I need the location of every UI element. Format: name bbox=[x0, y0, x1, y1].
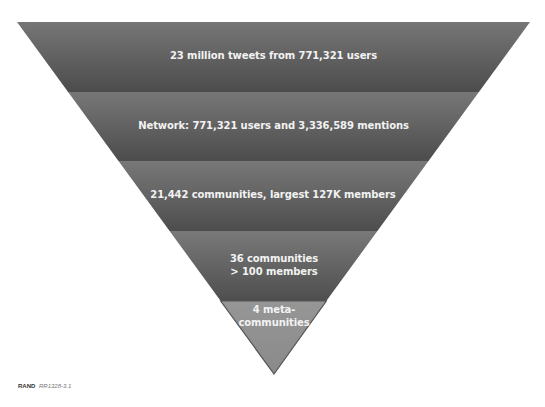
band-4-line-1: 36 communities bbox=[170, 252, 378, 265]
band-1-line-1: 23 million tweets from 771,321 users bbox=[17, 49, 530, 62]
band-3-line-1: 21,442 communities, largest 127K members bbox=[118, 188, 428, 201]
band-5-line-1: 4 meta- bbox=[221, 303, 327, 316]
band-5-line-2: communities bbox=[221, 316, 327, 329]
band-4-line-2: > 100 members bbox=[170, 265, 378, 278]
credit-org: RAND bbox=[18, 383, 35, 389]
band-4-label: 36 communities > 100 members bbox=[170, 252, 378, 278]
band-1-label: 23 million tweets from 771,321 users bbox=[17, 49, 530, 62]
band-5-label: 4 meta- communities bbox=[221, 303, 327, 329]
band-3-label: 21,442 communities, largest 127K members bbox=[118, 188, 428, 201]
band-2-label: Network: 771,321 users and 3,336,589 men… bbox=[68, 119, 479, 132]
credit-code: RR1328-3.1 bbox=[39, 383, 71, 389]
figure-credit: RAND RR1328-3.1 bbox=[18, 383, 71, 389]
band-2-line-1: Network: 771,321 users and 3,336,589 men… bbox=[68, 119, 479, 132]
